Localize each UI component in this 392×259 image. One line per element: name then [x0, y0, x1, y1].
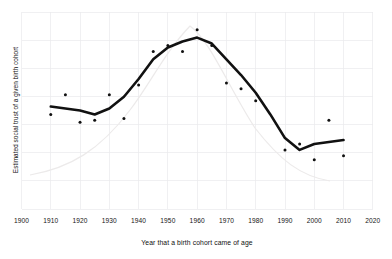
data-point — [254, 99, 257, 102]
y-axis-title: Estimated social trust of a given birth … — [12, 47, 20, 173]
x-tick-label: 2010 — [336, 217, 351, 224]
data-point — [313, 158, 316, 161]
data-point — [240, 87, 243, 90]
data-point — [298, 142, 301, 145]
data-point — [181, 50, 184, 53]
data-point — [137, 83, 140, 86]
data-point — [342, 154, 345, 157]
x-tick-label: 2020 — [365, 217, 380, 224]
data-point — [225, 81, 228, 84]
chart-canvas: 1900191019201930194019501960197019801990… — [0, 0, 392, 259]
x-tick-label: 1940 — [131, 217, 146, 224]
chart-figure: 1900191019201930194019501960197019801990… — [0, 0, 392, 259]
data-point — [122, 117, 125, 120]
data-point — [108, 93, 111, 96]
x-tick-label: 1990 — [277, 217, 292, 224]
x-tick-label: 1910 — [43, 217, 58, 224]
data-point — [327, 119, 330, 122]
x-axis-tick-labels: 1900191019201930194019501960197019801990… — [14, 217, 381, 224]
x-tick-label: 1930 — [102, 217, 117, 224]
data-point — [79, 121, 82, 124]
x-tick-label: 2000 — [307, 217, 322, 224]
x-tick-label: 1980 — [248, 217, 263, 224]
data-point — [49, 113, 52, 116]
x-tick-label: 1960 — [190, 217, 205, 224]
data-point — [283, 148, 286, 151]
x-axis-title: Year that a birth cohort came of age — [141, 239, 253, 247]
data-point — [152, 50, 155, 53]
data-point — [93, 119, 96, 122]
data-point — [196, 28, 199, 31]
data-point — [64, 93, 67, 96]
x-tick-label: 1900 — [14, 217, 29, 224]
x-tick-label: 1970 — [219, 217, 234, 224]
x-tick-label: 1950 — [160, 217, 175, 224]
x-tick-label: 1920 — [73, 217, 88, 224]
